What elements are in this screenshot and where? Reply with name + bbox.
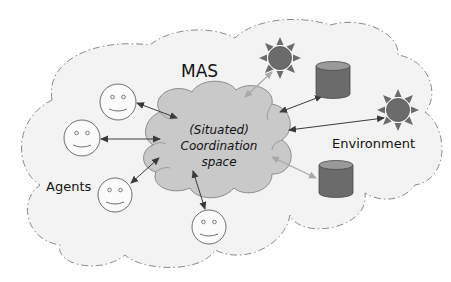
sun-icon	[259, 37, 301, 79]
database-1[interactable]	[316, 62, 350, 99]
agents-label: Agents	[46, 179, 91, 194]
sun-1[interactable]	[259, 37, 301, 79]
database-cylinder-icon	[319, 161, 353, 198]
sun-2[interactable]	[377, 89, 419, 131]
environment-label: Environment	[332, 136, 415, 151]
coordination-line-3: space	[201, 155, 236, 169]
agent-1[interactable]	[100, 84, 136, 120]
database-cylinder-icon	[316, 62, 350, 99]
smiley-face-icon	[192, 210, 226, 244]
coordination-line-2: Coordination	[181, 139, 258, 153]
sun-icon	[377, 89, 419, 131]
mas-label: MAS	[181, 61, 218, 81]
smiley-face-icon	[100, 84, 136, 120]
coordination-line-1: (Situated)	[189, 123, 249, 137]
agent-2[interactable]	[64, 120, 100, 156]
smiley-face-icon	[64, 120, 100, 156]
agent-3[interactable]	[98, 178, 132, 212]
agent-4[interactable]	[192, 210, 226, 244]
database-2[interactable]	[319, 161, 353, 198]
smiley-face-icon	[98, 178, 132, 212]
mas-diagram: MAS Agents Environment (Situated) Coordi…	[0, 0, 451, 282]
